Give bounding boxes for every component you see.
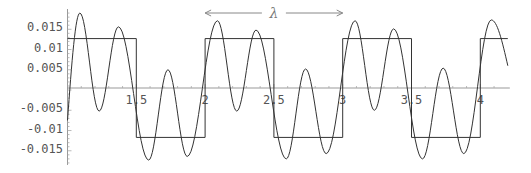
y-tick-label: -0.005 bbox=[20, 101, 63, 115]
chart: 0.0150.010.005-0.005-0.01-0.015 1.522.53… bbox=[0, 0, 531, 173]
y-tick-label: -0.01 bbox=[27, 122, 63, 136]
y-tick-labels: 0.0150.010.005-0.005-0.01-0.015 bbox=[20, 20, 63, 156]
x-axis bbox=[68, 84, 510, 88]
y-tick-label: -0.015 bbox=[20, 142, 63, 156]
y-tick-label: 0.015 bbox=[27, 20, 63, 34]
lambda-label: λ bbox=[268, 5, 278, 21]
y-tick-label: 0.01 bbox=[34, 41, 63, 55]
wavelength-annotation: λ bbox=[205, 5, 343, 21]
x-tick-labels: 1.522.533.54 bbox=[125, 93, 483, 107]
y-tick-label: 0.005 bbox=[27, 61, 63, 75]
